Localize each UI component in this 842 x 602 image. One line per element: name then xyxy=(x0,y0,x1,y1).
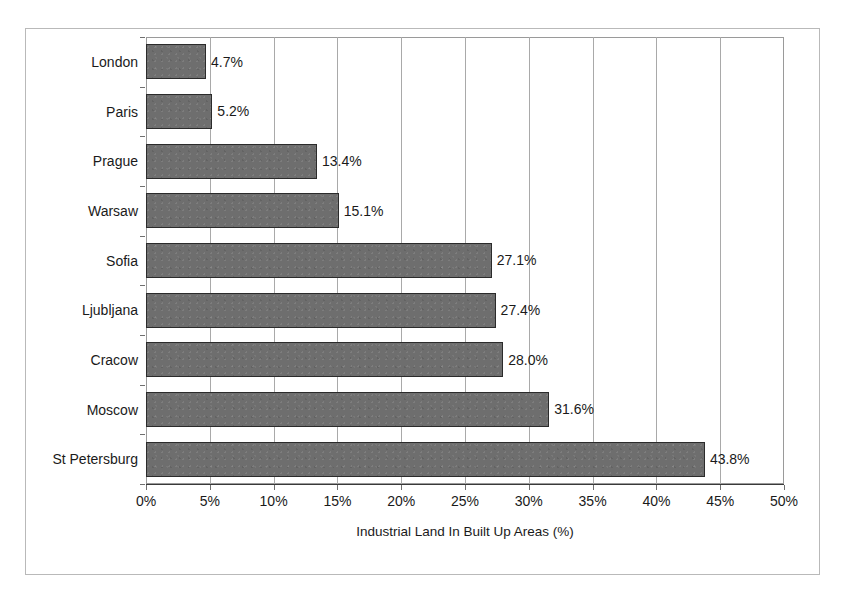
value-axis-tick-label: 5% xyxy=(200,493,220,509)
value-axis-tick-label: 40% xyxy=(642,493,670,509)
bar-prague[interactable] xyxy=(146,144,317,179)
bar-row: 28.0% xyxy=(146,342,784,377)
bar-value-label: 15.1% xyxy=(344,203,384,219)
bar-row: 27.1% xyxy=(146,243,784,278)
category-label-ljubljana: Ljubljana xyxy=(26,302,138,318)
bar-row: 43.8% xyxy=(146,442,784,477)
value-axis-tick-label: 10% xyxy=(260,493,288,509)
value-axis-tick xyxy=(401,485,402,490)
value-axis-tick xyxy=(593,485,594,490)
bar-london[interactable] xyxy=(146,44,206,79)
category-tick xyxy=(140,87,145,88)
value-axis-tick-label: 45% xyxy=(706,493,734,509)
bar-ljubljana[interactable] xyxy=(146,293,496,328)
category-tick xyxy=(140,335,145,336)
value-axis-tick xyxy=(210,485,211,490)
bar-row: 13.4% xyxy=(146,144,784,179)
category-label-london: London xyxy=(26,54,138,70)
category-label-prague: Prague xyxy=(26,153,138,169)
category-tick xyxy=(140,285,145,286)
category-label-paris: Paris xyxy=(26,104,138,120)
bar-value-label: 13.4% xyxy=(322,153,362,169)
bar-warsaw[interactable] xyxy=(146,193,339,228)
category-label-st-petersburg: St Petersburg xyxy=(26,451,138,467)
x-axis-title: Industrial Land In Built Up Areas (%) xyxy=(146,524,784,539)
bar-row: 31.6% xyxy=(146,392,784,427)
value-axis-tick xyxy=(529,485,530,490)
bar-value-label: 28.0% xyxy=(508,352,548,368)
category-tick xyxy=(140,236,145,237)
bar-value-label: 43.8% xyxy=(710,451,750,467)
category-axis: LondonParisPragueWarsawSofiaLjubljanaCra… xyxy=(26,37,138,484)
value-axis-tick xyxy=(337,485,338,490)
value-axis-tick xyxy=(784,485,785,490)
bar-row: 5.2% xyxy=(146,94,784,129)
horizontal-bar-chart: LondonParisPragueWarsawSofiaLjubljanaCra… xyxy=(26,29,821,576)
value-axis-tick xyxy=(146,485,147,490)
bar-row: 4.7% xyxy=(146,44,784,79)
bar-st-petersburg[interactable] xyxy=(146,442,705,477)
value-axis-tick xyxy=(720,485,721,490)
bar-cracow[interactable] xyxy=(146,342,503,377)
bar-value-label: 27.1% xyxy=(497,252,537,268)
bar-value-label: 5.2% xyxy=(217,103,249,119)
bar-value-label: 4.7% xyxy=(211,54,243,70)
bar-row: 27.4% xyxy=(146,293,784,328)
value-axis-tick-label: 0% xyxy=(136,493,156,509)
bar-value-label: 31.6% xyxy=(554,401,594,417)
category-tick xyxy=(140,186,145,187)
category-tick xyxy=(140,484,145,485)
bar-sofia[interactable] xyxy=(146,243,492,278)
category-label-cracow: Cracow xyxy=(26,352,138,368)
value-axis-tick-label: 15% xyxy=(323,493,351,509)
category-label-moscow: Moscow xyxy=(26,402,138,418)
bar-moscow[interactable] xyxy=(146,392,549,427)
bar-value-label: 27.4% xyxy=(501,302,541,318)
category-tick xyxy=(140,434,145,435)
value-axis-tick-label: 30% xyxy=(515,493,543,509)
category-label-warsaw: Warsaw xyxy=(26,203,138,219)
value-axis-tick xyxy=(465,485,466,490)
category-tick xyxy=(140,136,145,137)
value-axis-tick-label: 20% xyxy=(387,493,415,509)
value-axis-tick-label: 25% xyxy=(451,493,479,509)
bar-paris[interactable] xyxy=(146,94,212,129)
bars-layer: 4.7%5.2%13.4%15.1%27.1%27.4%28.0%31.6%43… xyxy=(146,37,784,484)
bar-row: 15.1% xyxy=(146,193,784,228)
value-axis-tick xyxy=(274,485,275,490)
category-label-sofia: Sofia xyxy=(26,253,138,269)
category-tick xyxy=(140,37,145,38)
chart-figure-frame: LondonParisPragueWarsawSofiaLjubljanaCra… xyxy=(25,28,820,575)
value-axis-tick-label: 35% xyxy=(579,493,607,509)
value-axis-tick xyxy=(656,485,657,490)
value-axis-tick-label: 50% xyxy=(770,493,798,509)
category-tick xyxy=(140,385,145,386)
